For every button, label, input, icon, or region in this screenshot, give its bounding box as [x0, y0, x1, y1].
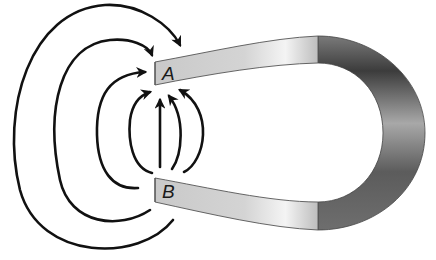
field-line-2	[54, 40, 152, 222]
pole-label-b: B	[162, 181, 175, 202]
magnet-bend	[318, 36, 425, 230]
field-line-7	[180, 90, 203, 172]
field-line-6	[169, 96, 181, 169]
field-lines	[14, 5, 203, 249]
field-line-4	[130, 92, 152, 173]
magnet-arm-b	[155, 178, 318, 230]
field-line-3	[97, 72, 145, 188]
pole-label-a: A	[161, 63, 175, 84]
magnet-field-diagram: A B	[0, 0, 436, 260]
